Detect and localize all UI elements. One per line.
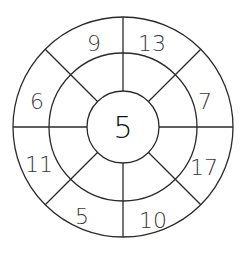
outer-number-bottom-right: 10 (139, 208, 167, 233)
spoke-top-right (149, 49, 201, 101)
outer-number-right-lower: 17 (190, 155, 218, 180)
outer-number-top-right: 13 (138, 31, 166, 56)
number-wheel: 5 9 13 7 17 10 5 11 6 (0, 0, 242, 258)
spoke-bottom-left (45, 153, 97, 205)
spoke-top-left (45, 49, 97, 101)
center-number: 5 (113, 110, 132, 145)
outer-number-bottom-left: 5 (75, 204, 89, 229)
outer-number-left-upper: 6 (30, 89, 44, 114)
outer-number-right-upper: 7 (198, 89, 212, 114)
outer-number-top-left: 9 (87, 31, 101, 56)
outer-number-left-lower: 11 (25, 152, 53, 177)
